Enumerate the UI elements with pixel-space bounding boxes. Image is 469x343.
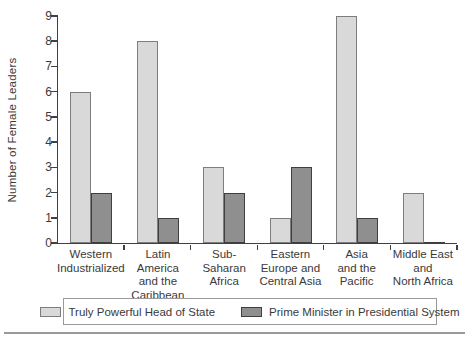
bar-group-3 <box>258 16 325 243</box>
y-tick <box>51 66 58 68</box>
y-tick-label: 0 <box>32 237 52 249</box>
y-tick <box>51 116 58 118</box>
category-label-3: Eastern Europe and Central Asia <box>257 248 323 302</box>
y-tick-label: 7 <box>32 60 52 72</box>
y-tick <box>51 40 58 42</box>
legend: Truly Powerful Head of State Prime Minis… <box>63 298 437 325</box>
category-label-1: Latin America and the Caribbean <box>125 248 191 302</box>
legend-item-prime-minister: Prime Minister in Presidential System <box>241 306 459 318</box>
category-label-2: Sub- Saharan Africa <box>191 248 257 302</box>
y-tick-label: 1 <box>32 212 52 224</box>
bar-group-0 <box>58 16 125 243</box>
y-tick <box>51 167 58 169</box>
bar-series1-cat3 <box>291 167 312 243</box>
bar-series0-cat5 <box>403 193 424 243</box>
bar-series1-cat5 <box>424 242 445 244</box>
bar-groups <box>58 16 457 243</box>
bar-series0-cat2 <box>203 167 224 243</box>
y-tick <box>51 192 58 194</box>
y-tick <box>51 217 58 219</box>
bar-series0-cat3 <box>270 218 291 243</box>
bar-group-5 <box>391 16 458 243</box>
x-tick <box>456 245 458 250</box>
legend-item-head-of-state: Truly Powerful Head of State <box>40 306 215 318</box>
bar-series0-cat1 <box>137 41 158 243</box>
legend-label-prime-minister: Prime Minister in Presidential System <box>269 306 459 318</box>
bar-group-1 <box>125 16 192 243</box>
bottom-rule <box>4 332 465 334</box>
female-leaders-bar-chart: Number of Female Leaders 0123456789 West… <box>0 0 469 343</box>
bar-series1-cat4 <box>357 218 378 243</box>
bar-group-4 <box>324 16 391 243</box>
plot-area: 0123456789 <box>57 16 457 244</box>
y-tick-label: 4 <box>32 136 52 148</box>
y-tick-label: 6 <box>32 86 52 98</box>
y-tick <box>51 91 58 93</box>
legend-swatch-dark <box>241 307 262 317</box>
bar-group-2 <box>191 16 258 243</box>
bar-series1-cat2 <box>224 193 245 243</box>
x-axis-category-labels: Western IndustrializedLatin America and … <box>57 248 456 302</box>
y-tick-label: 8 <box>32 35 52 47</box>
category-label-5: Middle East and North Africa <box>390 248 456 302</box>
legend-swatch-light <box>40 307 61 317</box>
y-tick-label: 5 <box>32 111 52 123</box>
legend-label-head-of-state: Truly Powerful Head of State <box>68 306 215 318</box>
y-tick <box>51 141 58 143</box>
y-tick-label: 3 <box>32 161 52 173</box>
bar-series1-cat1 <box>158 218 179 243</box>
y-tick-label: 2 <box>32 187 52 199</box>
y-axis-title: Number of Female Leaders <box>6 40 22 220</box>
y-tick <box>51 242 58 244</box>
bar-series0-cat4 <box>336 16 357 243</box>
y-tick <box>51 15 58 17</box>
category-label-0: Western Industrialized <box>57 248 125 302</box>
bar-series0-cat0 <box>70 92 91 243</box>
bar-series1-cat0 <box>91 193 112 243</box>
category-label-4: Asia and the Pacific <box>324 248 390 302</box>
y-tick-label: 9 <box>32 10 52 22</box>
